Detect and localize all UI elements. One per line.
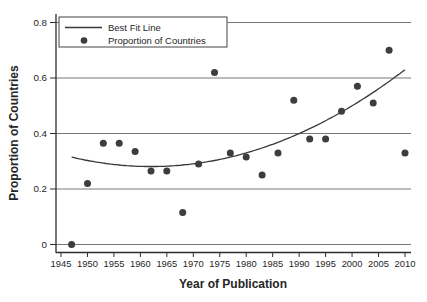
data-point <box>354 83 361 90</box>
x-tick-label: 1995 <box>315 258 336 269</box>
data-point <box>243 154 250 161</box>
data-point <box>259 172 266 179</box>
data-point <box>211 69 218 76</box>
data-point <box>306 136 313 143</box>
data-point <box>148 168 155 175</box>
data-point <box>290 97 297 104</box>
x-tick-label: 2005 <box>368 258 389 269</box>
legend-label: Proportion of Countries <box>108 35 206 46</box>
x-axis-title: Year of Publication <box>179 277 287 291</box>
data-point <box>84 180 91 187</box>
x-tick-label: 2000 <box>342 258 363 269</box>
x-tick-label: 1980 <box>236 258 257 269</box>
legend-label: Best Fit Line <box>108 22 161 33</box>
chart-canvas: 00.20.40.60.8194519501955196019651970197… <box>0 0 427 302</box>
x-tick-label: 1965 <box>156 258 177 269</box>
x-tick-label: 1985 <box>262 258 283 269</box>
x-tick-label: 1960 <box>130 258 151 269</box>
data-point <box>163 168 170 175</box>
legend-dot-sample <box>81 37 88 44</box>
legend: Best Fit LineProportion of Countries <box>59 17 227 47</box>
y-axis-title: Proportion of Countries <box>7 65 21 201</box>
y-tick-label: 0.2 <box>33 183 47 194</box>
data-point <box>275 149 282 156</box>
data-point <box>132 148 139 155</box>
x-tick-label: 1975 <box>209 258 230 269</box>
y-tick-label: 0 <box>42 239 48 250</box>
y-tick-label: 0.8 <box>33 17 47 28</box>
data-point <box>402 149 409 156</box>
data-point <box>195 161 202 168</box>
x-tick-label: 1945 <box>51 258 72 269</box>
x-tick-label: 1955 <box>103 258 124 269</box>
data-point <box>370 100 377 107</box>
data-point <box>338 108 345 115</box>
x-tick-label: 1990 <box>289 258 310 269</box>
y-tick-label: 0.6 <box>33 72 47 83</box>
data-point <box>116 140 123 147</box>
data-point <box>100 140 107 147</box>
data-point <box>227 149 234 156</box>
x-tick-label: 1950 <box>77 258 98 269</box>
data-point <box>322 136 329 143</box>
data-point <box>179 209 186 216</box>
data-point <box>68 241 75 248</box>
x-tick-label: 2010 <box>395 258 416 269</box>
x-tick-label: 1970 <box>183 258 204 269</box>
y-tick-label: 0.4 <box>33 128 47 139</box>
scatter-plot-figure: 00.20.40.60.8194519501955196019651970197… <box>0 0 427 302</box>
data-point <box>386 47 393 54</box>
